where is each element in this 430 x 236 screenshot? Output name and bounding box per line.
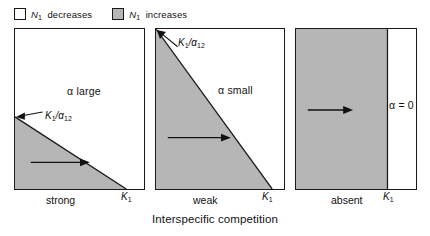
legend-entry-increases: N1 increases [112, 8, 187, 20]
panel-caption-strong: strong [46, 194, 75, 206]
panel-strong-shaded-region [15, 29, 144, 189]
legend: N1 decreases N1 increases [14, 5, 187, 23]
legend-label-increases: N1 increases [129, 9, 187, 20]
axis-sub-weak: 1 [269, 196, 273, 203]
axis-label-k1-strong: K1 [121, 191, 132, 202]
axis-sub-absent: 1 [390, 196, 394, 203]
panel-absent-alpha-label: α = 0 [389, 99, 414, 111]
intercept-denom-sub-weak: 12 [197, 42, 205, 49]
panel-weak-intercept-label: K1/α12 [178, 37, 205, 48]
interspecific-competition-figure: N1 decreases N1 increases α large K1/α12 [0, 0, 430, 236]
panel-weak-competition: α small K1/α12 [155, 28, 285, 190]
legend-text-increases: increases [146, 9, 188, 20]
legend-symbol-n1-b: N1 [129, 9, 140, 20]
axis-label-k1-absent: K1 [383, 191, 394, 202]
intercept-sub-strong: 1 [52, 115, 56, 122]
intercept-sub-weak: 1 [185, 42, 189, 49]
panel-strong-intercept-label: K1/α12 [45, 110, 72, 121]
legend-swatch-white [14, 8, 26, 20]
panel-weak-shaded-region [156, 29, 284, 189]
legend-entry-decreases: N1 decreases [14, 8, 92, 20]
axis-label-k1-weak: K1 [262, 191, 273, 202]
legend-symbol-n1: N1 [31, 9, 42, 20]
panel-strong-competition: α large K1/α12 [14, 28, 145, 190]
legend-subscript-1: 1 [38, 14, 42, 21]
panel-weak-alpha-label: α small [218, 84, 253, 96]
panel-caption-absent: absent [331, 194, 363, 206]
legend-subscript-1-b: 1 [136, 14, 140, 21]
panel-absent-competition: α = 0 [295, 28, 417, 190]
intercept-denom-sub-strong: 12 [64, 115, 72, 122]
legend-swatch-gray [112, 8, 124, 20]
panel-caption-weak: weak [193, 194, 218, 206]
panel-strong-alpha-label: α large [67, 85, 101, 97]
legend-label-decreases: N1 decreases [31, 9, 92, 20]
axis-sub-strong: 1 [128, 196, 132, 203]
figure-caption: Interspecific competition [0, 213, 430, 225]
legend-text-decreases: decreases [47, 9, 92, 20]
